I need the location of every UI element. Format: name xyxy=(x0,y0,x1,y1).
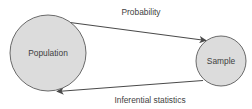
edge-label-probability: Probability xyxy=(121,7,161,17)
edge-probability: Probability xyxy=(63,7,207,40)
node-label-sample: Sample xyxy=(207,56,236,66)
inferential-statistics-arrow xyxy=(57,81,203,92)
node-sample: Sample xyxy=(196,36,246,86)
statistics-cycle-diagram: Probability Inferential statistics Popul… xyxy=(0,0,252,109)
node-population: Population xyxy=(10,15,86,91)
edge-inferential-statistics: Inferential statistics xyxy=(57,81,203,106)
node-label-population: Population xyxy=(28,48,68,58)
edge-label-inferential-statistics: Inferential statistics xyxy=(114,95,185,105)
diagram-canvas: Probability Inferential statistics Popul… xyxy=(0,0,252,109)
probability-arrow xyxy=(63,22,207,41)
